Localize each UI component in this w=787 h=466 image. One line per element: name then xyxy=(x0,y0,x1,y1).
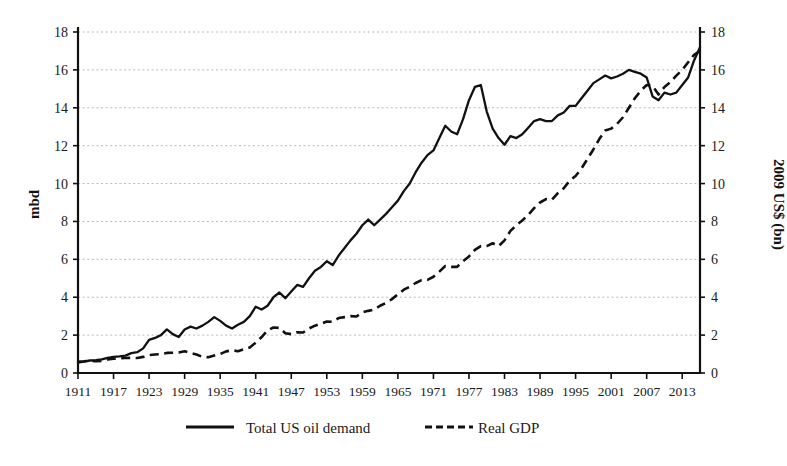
y-ticklabel-left: 16 xyxy=(54,63,68,78)
y-ticklabel-right: 0 xyxy=(711,366,718,381)
chart-legend: Total US oil demandReal GDP xyxy=(186,420,539,436)
y-ticklabel-right: 14 xyxy=(711,101,725,116)
y-ticklabel-left: 6 xyxy=(61,252,68,267)
x-ticklabel: 1929 xyxy=(171,384,198,399)
y-ticklabel-left: 14 xyxy=(54,101,68,116)
x-ticklabel: 1995 xyxy=(562,384,589,399)
y-ticklabel-left: 18 xyxy=(54,25,68,40)
x-ticklabel: 1935 xyxy=(207,384,234,399)
data-series-layer xyxy=(78,47,700,362)
x-ticklabel: 1977 xyxy=(455,384,482,399)
x-ticklabel: 1947 xyxy=(278,384,305,399)
x-ticklabel: 1953 xyxy=(313,384,340,399)
y-ticklabel-left: 2 xyxy=(61,328,68,343)
x-ticklabel: 1965 xyxy=(384,384,411,399)
x-ticklabel: 1971 xyxy=(420,384,447,399)
y-ticklabel-right: 10 xyxy=(711,177,725,192)
legend-label: Real GDP xyxy=(478,420,539,436)
x-ticklabel: 1959 xyxy=(349,384,376,399)
x-ticklabel: 2013 xyxy=(669,384,696,399)
y-ticklabel-right: 6 xyxy=(711,252,718,267)
x-ticklabel: 1917 xyxy=(100,384,127,399)
x-ticklabel: 2001 xyxy=(598,384,625,399)
x-ticklabel: 1941 xyxy=(242,384,269,399)
y-ticklabel-right: 12 xyxy=(711,139,725,154)
y-axis-right-ticklabels: 024681012141618 xyxy=(700,25,725,381)
x-axis-ticklabels: 1911191719231929193519411947195319591965… xyxy=(65,384,696,399)
y-ticklabel-left: 0 xyxy=(61,366,68,381)
y-axis-label-right: 2009 US$ (bn) xyxy=(770,125,787,285)
x-ticklabel: 2007 xyxy=(633,384,660,399)
y-ticklabel-right: 16 xyxy=(711,63,725,78)
series-line-total-us-oil-demand xyxy=(78,47,700,362)
y-ticklabel-left: 4 xyxy=(61,290,68,305)
x-ticklabel: 1923 xyxy=(136,384,163,399)
y-axis-label-left: mbd xyxy=(26,165,43,245)
x-ticklabel: 1911 xyxy=(65,384,92,399)
x-ticklabel: 1989 xyxy=(527,384,554,399)
y-ticklabel-left: 12 xyxy=(54,139,68,154)
y-ticklabel-left: 10 xyxy=(54,177,68,192)
y-ticklabel-right: 2 xyxy=(711,328,718,343)
y-ticklabel-right: 8 xyxy=(711,214,718,229)
y-axis-left-ticklabels: 024681012141618 xyxy=(54,25,78,381)
y-ticklabel-left: 8 xyxy=(61,214,68,229)
series-line-real-gdp xyxy=(78,51,700,362)
legend-label: Total US oil demand xyxy=(246,420,371,436)
axis-lines xyxy=(78,28,700,373)
y-ticklabel-right: 4 xyxy=(711,290,718,305)
x-ticklabel: 1983 xyxy=(491,384,518,399)
y-ticklabel-right: 18 xyxy=(711,25,725,40)
